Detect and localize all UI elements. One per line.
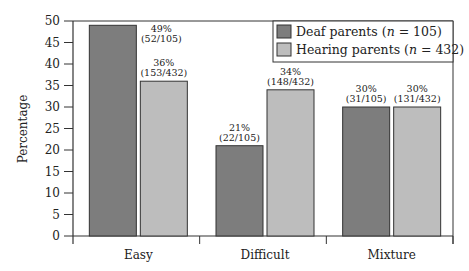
y-tick-label: 40 (45, 57, 60, 71)
bar-hearing-mixture (394, 107, 441, 236)
y-tick-label: 30 (45, 100, 60, 114)
y-tick-label: 0 (52, 229, 60, 243)
legend-swatch-hearing (277, 43, 291, 56)
value-label-fraction: (131/432) (394, 93, 441, 104)
y-axis: 05101520253035404550 (45, 14, 73, 244)
legend-label-deaf: Deaf parents (n = 105) (296, 24, 442, 39)
bar-deaf-easy (89, 25, 136, 236)
y-tick-label: 25 (45, 122, 60, 136)
value-label-fraction: (52/105) (141, 33, 182, 44)
x-category-label: Mixture (368, 248, 416, 262)
y-tick-label: 10 (45, 186, 60, 200)
x-category-label: Easy (124, 248, 153, 262)
legend-swatch-deaf (277, 25, 291, 38)
y-axis-label: Percentage (16, 95, 30, 164)
y-tick-label: 45 (45, 36, 60, 50)
value-label-fraction: (31/105) (346, 93, 387, 104)
y-tick-label: 15 (45, 165, 60, 179)
bar-deaf-difficult (216, 146, 263, 236)
x-axis: EasyDifficultMixture (73, 236, 453, 262)
bar-hearing-difficult (267, 90, 314, 236)
value-label-fraction: (153/432) (140, 67, 187, 78)
bar-deaf-mixture (343, 107, 390, 236)
y-tick-label: 20 (45, 143, 60, 157)
y-tick-label: 50 (45, 14, 60, 28)
y-tick-label: 35 (45, 79, 60, 93)
value-label-fraction: (22/105) (219, 132, 260, 143)
legend: Deaf parents (n = 105)Hearing parents (n… (273, 21, 464, 62)
y-tick-label: 5 (52, 208, 60, 222)
legend-label-hearing: Hearing parents (n = 432) (296, 42, 464, 57)
bar-hearing-easy (140, 81, 187, 236)
value-label-fraction: (148/432) (267, 76, 314, 87)
x-category-label: Difficult (241, 248, 290, 262)
bar-chart: 05101520253035404550 EasyDifficultMixtur… (0, 0, 469, 271)
